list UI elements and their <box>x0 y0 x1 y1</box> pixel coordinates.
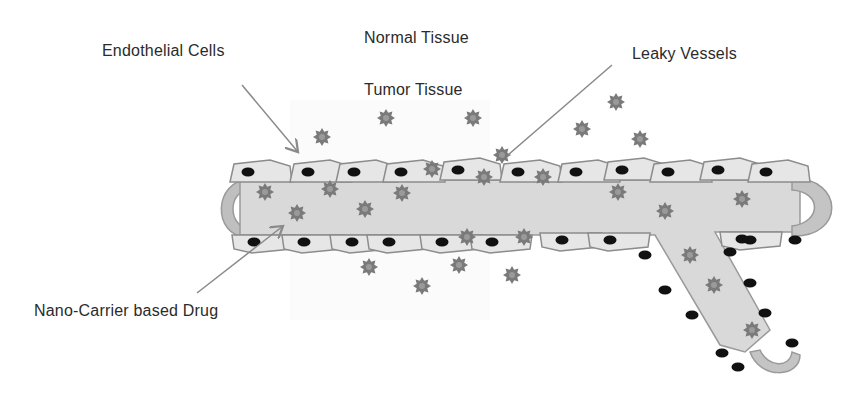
vessel-lumen <box>240 180 800 352</box>
tumor-tissue-label: Tumor Tissue <box>364 81 463 99</box>
leaky-vessels-pointer <box>508 65 612 155</box>
nano-carrier-drug-label: Nano-Carrier based Drug <box>34 302 218 320</box>
endothelial-cells-top <box>230 158 810 182</box>
endothelial-cells-label: Endothelial Cells <box>102 42 225 60</box>
leaky-vessels-label: Leaky Vessels <box>632 45 737 63</box>
vessel-branch-cap <box>750 350 800 373</box>
normal-tissue-label: Normal Tissue <box>364 29 469 47</box>
endothelial-cells-arrow <box>242 85 298 152</box>
